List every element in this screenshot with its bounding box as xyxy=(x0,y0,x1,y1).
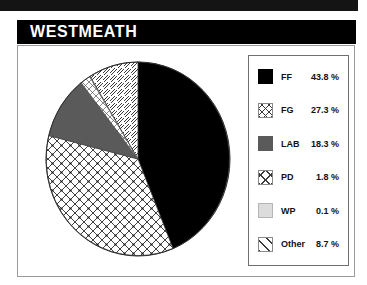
diagonal-hatch-swatch-icon xyxy=(258,237,273,252)
legend-label: FG xyxy=(281,105,294,115)
legend-row-fg: FG 27.3 % xyxy=(249,99,348,121)
light-gray-swatch-icon xyxy=(258,203,273,218)
legend-value: 0.1 % xyxy=(316,206,339,216)
legend-label: WP xyxy=(281,206,296,216)
chart-page: WESTMEATH xyxy=(0,0,367,285)
pie-chart-svg xyxy=(38,51,238,266)
legend-row-pd: PD 1.8 % xyxy=(249,166,348,188)
legend-row-ff: FF 43.8 % xyxy=(249,66,348,88)
legend-label: FF xyxy=(281,72,292,82)
legend-row-lab: LAB 18.3 % xyxy=(249,133,348,155)
crosshatch-swatch-icon xyxy=(258,103,273,118)
solid-gray-swatch-icon xyxy=(258,136,273,151)
page-title: WESTMEATH xyxy=(30,23,137,41)
legend-label: Other xyxy=(281,239,305,249)
legend: FF 43.8 % FG 27.3 % LAB 18.3 % PD 1.8 % xyxy=(248,55,349,266)
legend-value: 18.3 % xyxy=(311,139,339,149)
legend-row-wp: WP 0.1 % xyxy=(249,200,348,222)
solid-black-swatch-icon xyxy=(258,69,273,84)
title-bar: WESTMEATH xyxy=(17,20,356,44)
chart-content-frame: FF 43.8 % FG 27.3 % LAB 18.3 % PD 1.8 % xyxy=(17,45,355,277)
legend-label: PD xyxy=(281,172,294,182)
legend-value: 1.8 % xyxy=(316,172,339,182)
legend-row-other: Other 8.7 % xyxy=(249,233,348,255)
pie-chart xyxy=(38,51,238,266)
legend-value: 27.3 % xyxy=(311,105,339,115)
legend-label: LAB xyxy=(281,139,300,149)
legend-value: 43.8 % xyxy=(311,72,339,82)
legend-value: 8.7 % xyxy=(316,239,339,249)
light-crosshatch-swatch-icon xyxy=(258,170,273,185)
top-black-strip xyxy=(0,0,358,11)
